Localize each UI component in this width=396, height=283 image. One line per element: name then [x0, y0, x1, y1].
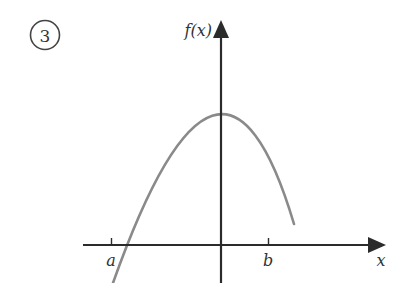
tick-label-b: b [263, 251, 273, 270]
function-graph: 3 a b x f(x) [0, 0, 396, 283]
problem-number: 3 [40, 26, 51, 46]
y-axis [213, 20, 229, 283]
problem-number-badge: 3 [31, 21, 60, 50]
x-axis-label: x [376, 251, 385, 270]
y-axis-label: f(x) [184, 21, 212, 40]
tick-label-a: a [106, 251, 116, 270]
y-axis-arrowhead-icon [213, 20, 229, 38]
